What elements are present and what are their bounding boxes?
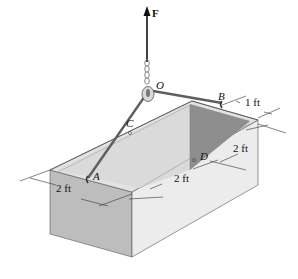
- dim-side-height: 2 ft: [233, 142, 248, 154]
- label-a: A: [92, 170, 100, 182]
- rope-ob: [153, 91, 222, 103]
- force-arrow-f: F: [144, 6, 160, 62]
- box: [50, 101, 258, 257]
- arrowhead-icon: [144, 6, 151, 16]
- dim-front-width: 2 ft: [56, 182, 71, 194]
- dim-b-offset: 1 ft: [245, 96, 260, 108]
- dim-side-length: 2 ft: [174, 172, 189, 184]
- box-lift-diagram: F O A B C D: [0, 0, 298, 279]
- label-o: O: [156, 79, 164, 91]
- label-b: B: [218, 90, 225, 102]
- label-f: F: [152, 7, 159, 19]
- ring-o: [142, 87, 154, 102]
- label-d: D: [199, 150, 208, 162]
- chain: [145, 60, 150, 84]
- hook-b: [221, 101, 223, 108]
- label-c: C: [126, 117, 134, 129]
